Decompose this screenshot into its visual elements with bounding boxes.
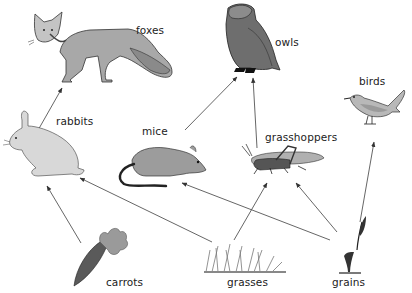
label-rabbits: rabbits [56, 115, 93, 127]
arrow-grains-to-grasshoppers [296, 183, 337, 232]
arrow-mice-to-owls [185, 77, 237, 130]
label-mice: mice [142, 125, 168, 137]
arrow-grasses-to-rabbits [80, 178, 212, 242]
label-birds: birds [359, 75, 385, 87]
label-grains: grains [332, 276, 365, 288]
owl-icon [226, 4, 280, 73]
arrow-grasses-to-grasshoppers [234, 183, 267, 240]
arrow-grains-to-mice [182, 183, 330, 240]
arrow-grasshoppers-to-owls [253, 78, 257, 148]
label-grasses: grasses [227, 276, 268, 288]
grasshopper-icon [242, 144, 324, 174]
label-owls: owls [275, 36, 299, 48]
fox-icon [28, 12, 172, 82]
food-web-canvas [0, 0, 412, 293]
label-grasshoppers: grasshoppers [265, 131, 337, 143]
label-foxes: foxes [136, 24, 164, 36]
mouse-icon [120, 146, 206, 186]
arrow-carrots-to-rabbits [47, 186, 81, 243]
bird-icon [344, 90, 405, 124]
grass-icon [204, 244, 286, 272]
grain-icon [339, 216, 366, 273]
label-carrots: carrots [106, 276, 143, 288]
arrow-grains-to-birds [360, 142, 374, 222]
